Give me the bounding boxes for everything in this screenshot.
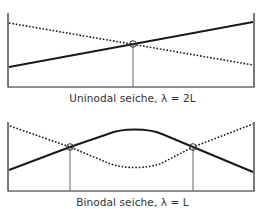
seiche-diagram	[0, 0, 265, 209]
uninodal-caption: Uninodal seiche, λ = 2L	[0, 92, 265, 104]
uninodal-solid-surface	[9, 22, 253, 67]
uninodal-panel	[8, 13, 254, 87]
binodal-solid-surface	[9, 130, 253, 173]
binodal-caption: Binodal seiche, λ = L	[0, 196, 265, 208]
uninodal-basin	[8, 13, 254, 87]
binodal-panel	[8, 122, 254, 191]
